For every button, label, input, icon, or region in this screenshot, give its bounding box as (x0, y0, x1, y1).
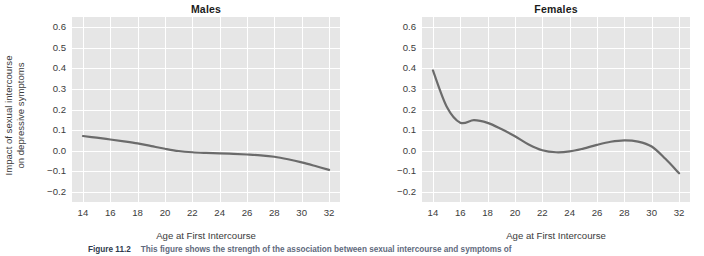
y-axis-tick-label: 0.0 (32, 145, 66, 157)
x-axis-label-females: Age at First Intercourse (422, 230, 690, 242)
x-axis-tick-label: 16 (448, 207, 472, 219)
y-axis-label-line1: Impact of sexual intercourse (3, 56, 14, 176)
y-axis-tick-label: 0.0 (382, 145, 416, 157)
y-axis-tick-label: 0.1 (382, 124, 416, 136)
curve-males (72, 17, 340, 202)
x-axis-label-males: Age at First Intercourse (72, 230, 340, 242)
panel-title-males: Males (72, 2, 340, 16)
y-axis-tick-label: −0.2 (32, 186, 66, 198)
y-axis-tick-label: −0.2 (382, 186, 416, 198)
x-axis-tick-label: 26 (235, 207, 259, 219)
figure-caption-number: Figure 11.2 (88, 245, 131, 254)
x-axis-tick-label: 24 (558, 207, 582, 219)
y-axis-tick-label: 0.1 (32, 124, 66, 136)
y-axis-label: Impact of sexual intercourse on depressi… (3, 16, 26, 216)
x-axis-tick-label: 32 (667, 207, 691, 219)
y-axis-tick-label: −0.1 (32, 165, 66, 177)
x-axis-tick-label: 28 (612, 207, 636, 219)
y-axis-tick-label: 0.6 (382, 21, 416, 33)
y-axis-tick-label: 0.3 (382, 83, 416, 95)
y-axis-tick-label: 0.4 (32, 62, 66, 74)
x-axis-tick-label: 28 (262, 207, 286, 219)
x-axis-tick-label: 14 (71, 207, 95, 219)
x-axis-tick-label: 22 (180, 207, 204, 219)
y-axis-tick-label: 0.3 (32, 83, 66, 95)
x-axis-tick-label: 32 (317, 207, 341, 219)
x-axis-tick-label: 30 (290, 207, 314, 219)
figure-caption: Figure 11.2This figure shows the strengt… (88, 245, 628, 254)
figure-container: Males Females Impact of sexual intercour… (0, 0, 704, 256)
y-axis-label-line2: on depressive symptoms (14, 62, 25, 168)
y-axis-tick-label: −0.1 (382, 165, 416, 177)
x-axis-tick-label: 26 (585, 207, 609, 219)
y-axis-tick-label: 0.6 (32, 21, 66, 33)
figure-caption-text: This figure shows the strength of the as… (141, 245, 512, 254)
y-axis-tick-label: 0.2 (382, 104, 416, 116)
x-axis-tick-label: 20 (153, 207, 177, 219)
x-axis-tick-label: 14 (421, 207, 445, 219)
panel-title-females: Females (422, 2, 690, 16)
x-axis-tick-label: 22 (530, 207, 554, 219)
x-axis-tick-label: 18 (126, 207, 150, 219)
x-axis-tick-label: 24 (208, 207, 232, 219)
x-axis-tick-label: 20 (503, 207, 527, 219)
curve-females (422, 17, 690, 202)
y-axis-tick-label: 0.5 (32, 42, 66, 54)
x-axis-tick-label: 16 (98, 207, 122, 219)
y-axis-tick-label: 0.4 (382, 62, 416, 74)
x-axis-tick-label: 18 (476, 207, 500, 219)
y-axis-tick-label: 0.5 (382, 42, 416, 54)
x-axis-tick-label: 30 (640, 207, 664, 219)
y-axis-tick-label: 0.2 (32, 104, 66, 116)
